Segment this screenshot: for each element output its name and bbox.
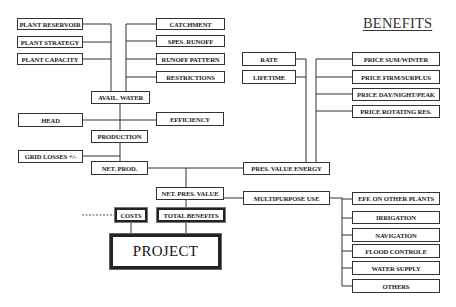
node-irrigation: IRRIGATION: [352, 211, 440, 224]
node-runoff-pattern: RUNOFF PATTERN: [156, 53, 225, 65]
node-plant-capacity: PLANT CAPACITY: [17, 53, 83, 65]
node-avail-water: AVAIL. WATER: [91, 91, 150, 104]
node-lifetime: LIFETIME: [242, 70, 296, 84]
node-efficiency: EFFICIENCY: [156, 112, 224, 126]
node-price-day-night-peak: PRICE DAY/NIGHT/PEAK: [352, 88, 440, 101]
node-production: PRODUCTION: [91, 130, 148, 143]
benefits-flow-diagram: BENEFITS PLANT RESERVOIR PLANT STRATEGY …: [0, 0, 456, 307]
node-price-firm-surplus: PRICE FIRM/SURPLUS: [352, 70, 440, 84]
node-price-sum-winter: PRICE SUM/WINTER: [352, 52, 440, 66]
benefits-title: BENEFITS: [363, 15, 432, 32]
node-water-supply: WATER SUPPLY: [352, 261, 440, 275]
node-spes-runoff: SPES. RUNOFF: [156, 35, 225, 47]
node-net-pres-value: NET. PRES. VALUE: [156, 187, 224, 200]
node-restrictions: RESTRICTIONS: [156, 71, 225, 83]
node-project: PROJECT: [110, 234, 221, 269]
node-grid-losses: GRID LOSSES +/-: [18, 150, 83, 163]
node-multipurpose-use: MULTIPURPOSE USE: [243, 191, 330, 205]
node-eff-on-other-plants: EFF. ON OTHER PLANTS: [352, 192, 440, 205]
node-navigation: NAVIGATION: [352, 228, 440, 242]
node-pres-value-energy: PRES. VALUE ENERGY: [243, 162, 330, 175]
node-others: OTHERS: [352, 279, 440, 293]
node-total-benefits: TOTAL BENEFITS: [157, 208, 225, 222]
node-costs: COSTS: [115, 208, 147, 222]
node-price-rotating-res: PRICE ROTATING RES.: [352, 105, 440, 118]
node-rate: RATE: [242, 52, 296, 66]
node-plant-reservoir: PLANT RESERVOIR: [17, 18, 83, 30]
node-head: HEAD: [18, 113, 83, 127]
node-flood-controle: FLOOD CONTROLE: [352, 244, 440, 258]
node-net-prod: NET. PROD.: [91, 161, 148, 175]
node-catchment: CATCHMENT: [156, 18, 225, 30]
node-plant-strategy: PLANT STRATEGY: [17, 36, 83, 48]
